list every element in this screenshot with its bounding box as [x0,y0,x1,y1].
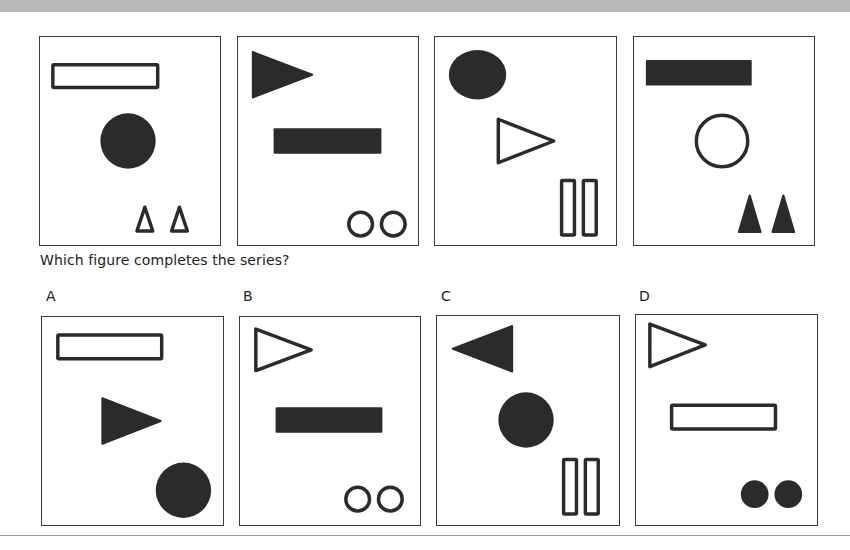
filled-triangle-up-shape [739,195,761,232]
outline-triangle-right-shape [256,329,311,371]
option-a-shapes [42,317,223,525]
series-figure-1 [39,36,221,246]
outline-circle-shape [349,212,373,236]
series-figure-3-shapes [435,37,616,245]
series-figure-4-shapes [634,37,814,245]
option-c-label: C [441,288,451,304]
series-figure-2-shapes [238,37,418,245]
series-figure-4 [633,36,815,246]
filled-circle-shape [741,480,769,508]
series-figure-3 [434,36,617,246]
filled-circle-shape [498,392,553,447]
outline-circle-shape [381,212,405,236]
outline-rectangle-shape [58,335,162,359]
filled-triangle-left-shape [453,326,512,372]
option-b-shapes [240,317,420,525]
outline-vertical-bar-shape [585,460,598,514]
filled-rectangle-shape [646,60,752,86]
outline-circle-shape [378,487,402,511]
series-figure-2 [237,36,419,246]
outline-vertical-bar-shape [562,181,575,235]
outline-circle-shape [346,487,370,511]
outline-triangle-up-shape [172,207,188,231]
option-d-figure[interactable] [635,314,818,526]
option-a-label: A [46,288,56,304]
filled-circle-shape [100,113,155,168]
outline-vertical-bar-shape [583,181,596,235]
filled-triangle-right-shape [253,52,312,97]
outline-triangle-up-shape [137,207,153,231]
option-d-shapes [636,315,817,525]
filled-circle-shape [774,480,802,508]
option-c-figure[interactable] [436,315,620,526]
filled-triangle-right-shape [102,398,160,443]
filled-rectangle-shape [276,407,383,433]
outline-circle-shape [696,115,747,166]
bottom-divider [0,535,850,536]
outline-triangle-right-shape [650,324,705,367]
filled-triangle-up-shape [772,195,794,232]
outline-vertical-bar-shape [564,460,577,514]
filled-rectangle-shape [274,128,382,154]
option-b-label: B [243,288,253,304]
option-c-shapes [437,316,619,525]
option-d-label: D [639,288,650,304]
option-a-figure[interactable] [41,316,224,526]
option-b-figure[interactable] [239,316,421,526]
filled-circle-shape [449,50,506,99]
outline-rectangle-shape [53,65,158,88]
filled-circle-shape [156,463,211,518]
question-prompt: Which figure completes the series? [40,252,290,268]
top-banner [0,0,850,12]
series-figure-1-shapes [40,37,220,245]
outline-rectangle-shape [672,405,776,429]
outline-triangle-right-shape [498,119,553,163]
